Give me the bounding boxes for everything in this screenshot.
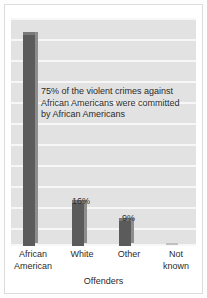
bar-side-face — [35, 32, 38, 243]
bar-side-face — [84, 200, 87, 243]
bar-white[interactable] — [72, 200, 84, 246]
bar-african-american[interactable] — [23, 32, 35, 246]
bar-front-face — [23, 35, 35, 246]
bar-chart-figure: 16% 9% 75% of the violent crimes against… — [0, 0, 207, 298]
annotation-line-3: by African Americans — [41, 109, 193, 121]
bar-front-face — [72, 203, 84, 246]
value-label-other: 9% — [122, 213, 135, 223]
category-label-line: known — [146, 261, 206, 273]
bars-layer — [11, 18, 196, 246]
category-label-not-known: Not known — [146, 249, 206, 272]
value-label-white: 16% — [72, 196, 90, 206]
category-label-line: Not — [146, 249, 206, 261]
bar-not-known[interactable] — [166, 243, 178, 245]
annotation-line-1: 75% of the violent crimes against — [41, 86, 193, 98]
x-axis-title: Offenders — [0, 276, 207, 286]
annotation-line-2: African Americans were committed — [41, 98, 193, 110]
chart-annotation: 75% of the violent crimes against Africa… — [41, 86, 193, 121]
category-label-line: American — [3, 261, 63, 273]
bar-front-face — [119, 221, 131, 246]
